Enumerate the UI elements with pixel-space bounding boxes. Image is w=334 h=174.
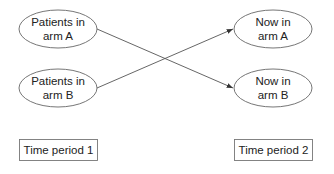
node-label-line1: Patients in (31, 75, 85, 87)
time-period-2-box: Time period 2 (235, 140, 313, 161)
node-now-arm-a: Now in arm A (234, 10, 312, 48)
time-period-1-label: Time period 1 (24, 144, 94, 156)
node-patients-arm-b: Patients in arm B (19, 69, 97, 107)
node-now-arm-b: Now in arm B (234, 69, 312, 107)
node-label-line2: arm B (43, 89, 74, 101)
node-label-line1: Patients in (31, 16, 85, 28)
time-period-2-label: Time period 2 (239, 144, 309, 156)
node-label-line1: Now in (255, 16, 290, 28)
node-label-line2: arm A (43, 30, 73, 42)
time-period-1-box: Time period 1 (20, 140, 98, 161)
node-label-line2: arm B (258, 89, 289, 101)
crossover-diagram: Patients in arm A Patients in arm B Now … (0, 0, 334, 174)
node-label-line1: Now in (255, 75, 290, 87)
node-label-line2: arm A (258, 30, 288, 42)
node-patients-arm-a: Patients in arm A (19, 10, 97, 48)
